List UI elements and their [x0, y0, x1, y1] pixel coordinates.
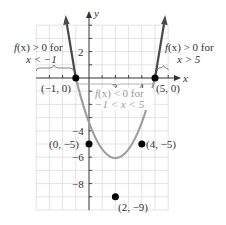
middle-annotation-line2: −1 < x < 5: [95, 98, 145, 110]
parabola-left-branch: [67, 24, 76, 78]
right-brace: [157, 66, 168, 72]
left-branch-arrow-icon: [63, 15, 69, 25]
y-tick-minus6: −6: [72, 151, 84, 163]
point-4-minus5: [138, 141, 145, 148]
parabola-right-branch: [155, 24, 164, 78]
x-axis-label: x: [182, 72, 188, 84]
right-branch-arrow-icon: [161, 15, 167, 25]
label-0-minus5: (0, −5): [49, 138, 79, 151]
y-axis-arrow-icon: [86, 11, 92, 18]
right-annotation-line2: x > 5: [176, 53, 201, 65]
point-2-minus9: [112, 193, 119, 200]
label-5-0: (5, 0): [156, 82, 180, 95]
point-5-0: [152, 75, 159, 82]
left-annotation-line2: x < −1: [25, 53, 57, 65]
parabola-chart: 2 4 2 −4 −6 −8 x y f(x) > 0 for f(x) > 0…: [0, 0, 226, 225]
tick-marks: [49, 25, 168, 197]
y-tick-minus4: −4: [72, 125, 84, 137]
y-tick-minus8: −8: [72, 178, 84, 190]
label-2-minus9: (2, −9): [118, 201, 148, 214]
point-minus1-0: [72, 75, 79, 82]
label-minus1-0: (−1, 0): [41, 82, 71, 95]
x-axis-arrow-icon: [174, 75, 181, 81]
point-0-minus5: [86, 141, 93, 148]
y-tick-2: 2: [78, 46, 84, 58]
label-4-minus5: (4, −5): [146, 138, 176, 151]
left-brace: [36, 65, 73, 71]
y-axis-label: y: [93, 7, 99, 19]
